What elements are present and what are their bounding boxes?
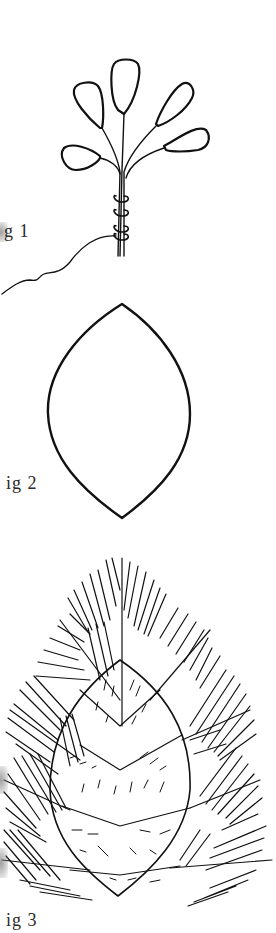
figure-3-label: ig 3 bbox=[6, 910, 38, 931]
figure-1-label: g 1 bbox=[4, 221, 30, 242]
wire-flower-drawing bbox=[0, 0, 276, 300]
figure-2-label: ig 2 bbox=[6, 473, 38, 494]
pine-spray-motif-drawing bbox=[0, 530, 276, 933]
figure-2: ig 2 bbox=[0, 280, 276, 540]
scan-smudge bbox=[0, 848, 8, 878]
figure-1: g 1 bbox=[0, 0, 276, 300]
pointed-oval-drawing bbox=[0, 280, 276, 540]
figure-3: ig 3 bbox=[0, 530, 276, 933]
scan-smudge bbox=[0, 766, 8, 794]
